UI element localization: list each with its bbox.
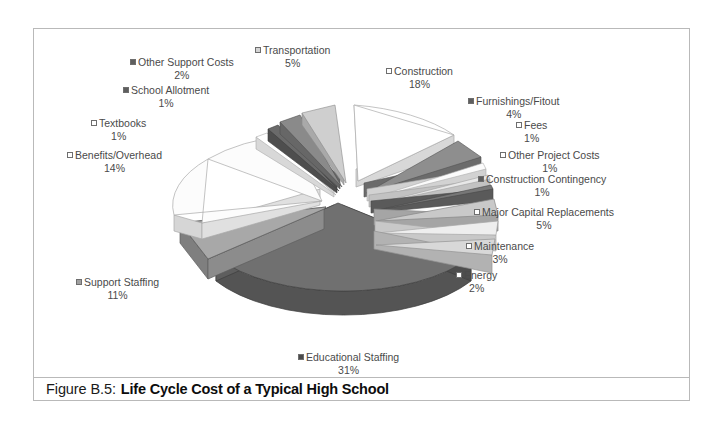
label-maintenance: Maintenance 3% <box>466 240 534 265</box>
marker-furnishings-fitout-icon <box>468 98 474 104</box>
marker-school-allotment-icon <box>123 87 129 93</box>
marker-support-staffing-icon <box>76 279 82 285</box>
marker-other-project-costs-icon <box>500 152 506 158</box>
pie-chart-graphic <box>34 29 689 378</box>
label-textbooks: Textbooks 1% <box>91 117 146 142</box>
label-support-staffing: Support Staffing 11% <box>76 276 159 301</box>
marker-construction-contingency-icon <box>478 176 484 182</box>
marker-educational-staffing-icon <box>298 354 304 360</box>
marker-major-capital-replacements-icon <box>474 209 480 215</box>
figure-frame: Transportation 5% Other Support Costs 2%… <box>33 28 690 401</box>
label-other-support-costs: Other Support Costs 2% <box>130 56 234 81</box>
label-energy: Energy 2% <box>456 269 497 294</box>
label-fees: Fees 1% <box>516 119 547 144</box>
label-construction: Construction 18% <box>386 65 453 90</box>
label-educational-staffing: Educational Staffing 31% <box>298 351 399 376</box>
label-transportation: Transportation 5% <box>255 44 330 69</box>
marker-benefits-overhead-icon <box>67 152 73 158</box>
label-furnishings-fitout: Furnishings/Fitout 4% <box>468 95 559 120</box>
marker-construction-icon <box>386 68 392 74</box>
label-benefits-overhead: Benefits/Overhead 14% <box>67 149 162 174</box>
label-other-project-costs: Other Project Costs 1% <box>500 149 600 174</box>
figure-caption-prefix: Figure B.5: <box>46 381 116 397</box>
label-major-capital-replacements: Major Capital Replacements 5% <box>474 206 614 231</box>
marker-maintenance-icon <box>466 243 472 249</box>
marker-energy-icon <box>456 272 462 278</box>
marker-textbooks-icon <box>91 120 97 126</box>
marker-transportation-icon <box>255 47 261 53</box>
label-school-allotment: School Allotment 1% <box>123 84 209 109</box>
figure-caption-title: Life Cycle Cost of a Typical High School <box>121 381 389 397</box>
figure-caption-bar: Figure B.5: Life Cycle Cost of a Typical… <box>34 377 689 400</box>
label-construction-contingency: Construction Contingency 1% <box>478 173 606 198</box>
pie-chart-area: Transportation 5% Other Support Costs 2%… <box>34 29 689 378</box>
marker-fees-icon <box>516 122 522 128</box>
marker-other-support-costs-icon <box>130 59 136 65</box>
